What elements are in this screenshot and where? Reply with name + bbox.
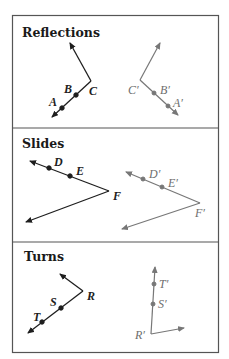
image-figure: C′ B′ A′ bbox=[128, 43, 183, 115]
outer-frame bbox=[13, 16, 219, 353]
point-label-b: B bbox=[63, 82, 72, 96]
point-label-d-prime: D′ bbox=[148, 167, 161, 181]
point-label-e-prime: E′ bbox=[167, 176, 178, 190]
point-label-s-prime: S′ bbox=[158, 297, 167, 311]
ray-arrow bbox=[140, 43, 160, 80]
point-label-c-prime: C′ bbox=[128, 83, 139, 97]
point-label-d: D bbox=[53, 155, 63, 169]
point-label-r: R bbox=[86, 289, 95, 303]
ray-arrow bbox=[151, 267, 155, 334]
point-label-r-prime: R′ bbox=[134, 328, 145, 342]
point-label-c: C bbox=[89, 84, 98, 98]
point-t-prime bbox=[152, 282, 156, 286]
point-label-f-prime: F′ bbox=[194, 206, 205, 220]
panel-turns: Turns T S R T′ S′ R′ bbox=[24, 249, 184, 342]
point-s-prime bbox=[151, 302, 155, 306]
point-t bbox=[40, 320, 44, 324]
point-s bbox=[59, 306, 63, 310]
point-label-s: S bbox=[50, 295, 57, 309]
ray-arrow bbox=[60, 274, 83, 291]
panel-title: Reflections bbox=[22, 25, 100, 40]
point-label-a: A bbox=[48, 95, 57, 109]
point-label-f: F bbox=[112, 189, 121, 203]
point-a bbox=[60, 106, 64, 110]
panel-title: Turns bbox=[24, 249, 64, 264]
original-figure: A B C bbox=[48, 43, 98, 117]
original-figure: T S R bbox=[28, 274, 95, 333]
ray-arrow bbox=[26, 191, 109, 222]
point-a-prime bbox=[166, 104, 170, 108]
point-label-t-prime: T′ bbox=[159, 277, 169, 291]
point-b bbox=[74, 93, 78, 97]
ray-arrow bbox=[70, 43, 91, 81]
ray-arrow bbox=[122, 203, 200, 229]
point-e bbox=[68, 174, 72, 178]
transformations-diagram: Reflections A B C C′ B′ A′ Slides D bbox=[0, 0, 229, 359]
point-label-b-prime: B′ bbox=[160, 83, 170, 97]
image-figure: D′ E′ F′ bbox=[122, 167, 205, 229]
panel-reflections: Reflections A B C C′ B′ A′ bbox=[22, 25, 183, 117]
panel-slides: Slides D E F D′ E′ F′ bbox=[22, 136, 205, 229]
point-d bbox=[47, 166, 51, 170]
original-figure: D E F bbox=[26, 155, 121, 222]
image-figure: T′ S′ R′ bbox=[134, 267, 184, 342]
point-label-a-prime: A′ bbox=[172, 96, 183, 110]
panel-title: Slides bbox=[22, 136, 64, 151]
point-label-t: T bbox=[33, 310, 41, 324]
point-b-prime bbox=[152, 91, 156, 95]
point-d-prime bbox=[141, 177, 145, 181]
point-e-prime bbox=[160, 185, 164, 189]
point-label-e: E bbox=[75, 164, 84, 178]
ray-arrow bbox=[151, 328, 184, 334]
